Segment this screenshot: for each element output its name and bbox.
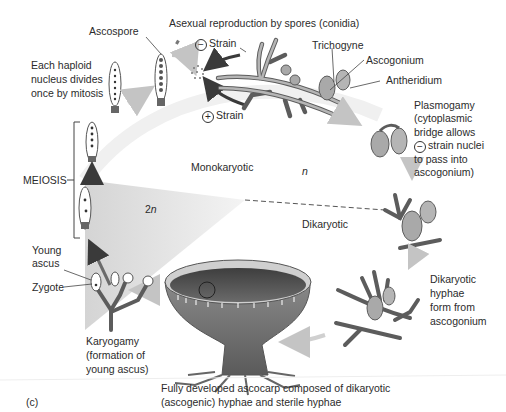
- figure-caption: Fully developed ascocarp composed of dik…: [161, 381, 390, 409]
- plasmogamy-cells: [371, 125, 407, 157]
- plus-strain-text: Strain: [216, 109, 243, 121]
- diploid-2n-label: 2n: [145, 203, 157, 216]
- ascocarp: [165, 260, 311, 395]
- diploid-n: n: [151, 203, 157, 215]
- minus-strain-icon: −: [195, 39, 207, 51]
- plasmogamy-line-4: −strain nuclei: [414, 139, 484, 153]
- panel-label: (c): [26, 396, 38, 409]
- dikaryotic-label: Dikaryotic: [302, 218, 348, 231]
- monokaryotic-label: Monokaryotic: [191, 161, 253, 174]
- plasmogamy-line-5: to pass into: [414, 153, 484, 166]
- plasmogamy-line-4-text: strain nuclei: [428, 139, 484, 151]
- plasmogamy-line-3: bridge allows: [414, 126, 484, 139]
- trichogyne-label: Trichogyne: [312, 39, 364, 52]
- ascus-mitosis: [109, 62, 121, 113]
- plasmogamy-line-1: Plasmogamy: [414, 99, 484, 112]
- ascospore-label: Ascospore: [89, 25, 139, 38]
- antheridium-shape: [336, 70, 350, 90]
- conidia-spores: [191, 65, 204, 79]
- meiosis-bracket: [74, 122, 80, 238]
- dikaryotic-hyphae-description: Dikaryotic hyphae form from ascogonium: [430, 272, 487, 328]
- plasmogamy-line-6: ascogonium): [414, 166, 484, 179]
- mitosis-description: Each haploid nucleus divides once by mit…: [31, 58, 103, 100]
- life-cycle-diagram: Ascospore Asexual reproduction by spores…: [0, 0, 506, 412]
- plasmogamy-description: Plasmogamy (cytoplasmic bridge allows −s…: [414, 99, 484, 179]
- minus-strain-icon: −: [414, 141, 426, 153]
- plasmogamy-line-2: (cytoplasmic: [414, 112, 484, 125]
- haploid-dikaryotic-divider: [245, 200, 385, 210]
- ascus-ascospores: [155, 54, 167, 106]
- antheridium-label: Antheridium: [386, 74, 442, 87]
- young-ascus-label: Young ascus: [32, 244, 61, 270]
- asexual-reproduction-label: Asexual reproduction by spores (conidia): [169, 17, 359, 30]
- minus-strain-label: −Strain: [195, 37, 236, 51]
- haploid-n-label: n: [302, 165, 308, 178]
- plus-strain-label: +Strain: [202, 109, 243, 123]
- plus-strain-icon: +: [202, 111, 214, 123]
- ascogonium-label: Ascogonium: [366, 54, 424, 67]
- ascus-4-nuclei: [79, 187, 91, 229]
- minus-strain-text: Strain: [209, 37, 236, 49]
- meiosis-label: MEIOSIS: [23, 174, 67, 187]
- zygote-label: Zygote: [32, 281, 64, 294]
- ascus-8-nuclei: [86, 122, 98, 162]
- karyogamy-description: Karyogamy (formation of young ascus): [86, 334, 148, 376]
- young-ascus-shape: [91, 273, 101, 291]
